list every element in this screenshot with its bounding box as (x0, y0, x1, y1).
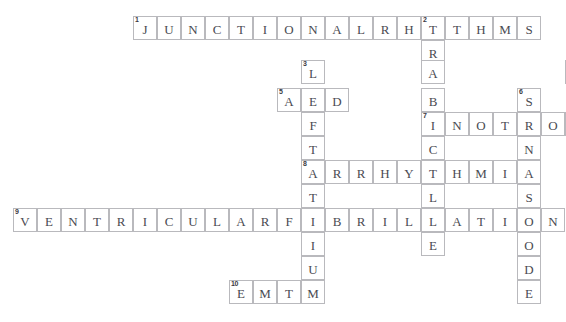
clue-number: 2 (423, 16, 427, 23)
crossword-cell[interactable]: 2T (421, 16, 445, 40)
crossword-cell[interactable]: R (349, 160, 373, 184)
crossword-cell[interactable]: H (373, 160, 397, 184)
crossword-cell[interactable]: A (421, 60, 445, 84)
cell-letter: H (374, 161, 396, 185)
crossword-cell[interactable]: I (301, 232, 325, 256)
crossword-cell[interactable]: B (421, 88, 445, 112)
crossword-cell[interactable]: S (517, 16, 541, 40)
crossword-cell[interactable]: F (301, 112, 325, 136)
crossword-cell[interactable]: T (493, 112, 517, 136)
cell-letter: I (302, 233, 324, 257)
crossword-cell[interactable]: A (517, 160, 541, 184)
crossword-cell[interactable]: Y (397, 160, 421, 184)
crossword-grid[interactable]: 1JUNCTIONALRH2TTHMSR3LA4ENLARGEDHEART5AE… (0, 0, 566, 322)
clue-number: 6 (519, 88, 523, 95)
cell-letter: N (182, 17, 204, 41)
crossword-cell[interactable]: C (421, 136, 445, 160)
crossword-cell[interactable]: E (301, 88, 325, 112)
crossword-cell[interactable]: R (253, 208, 277, 232)
crossword-cell[interactable]: U (157, 16, 181, 40)
crossword-cell[interactable]: I (133, 208, 157, 232)
crossword-cell[interactable]: L (349, 16, 373, 40)
cell-letter: L (398, 209, 420, 233)
crossword-cell[interactable]: M (469, 160, 493, 184)
crossword-cell[interactable]: I (301, 208, 325, 232)
crossword-cell[interactable]: E (421, 232, 445, 256)
crossword-cell[interactable]: N (61, 208, 85, 232)
crossword-cell[interactable]: 10E (229, 280, 253, 304)
crossword-cell[interactable]: D (517, 256, 541, 280)
crossword-cell[interactable]: 5A (277, 88, 301, 112)
crossword-cell[interactable]: R (325, 160, 349, 184)
cell-letter: O (470, 113, 492, 137)
crossword-cell[interactable]: H (469, 16, 493, 40)
crossword-cell[interactable]: U (181, 208, 205, 232)
crossword-cell[interactable]: N (517, 136, 541, 160)
crossword-cell[interactable]: L (205, 208, 229, 232)
crossword-cell[interactable]: T (301, 184, 325, 208)
crossword-cell[interactable]: T (301, 136, 325, 160)
crossword-cell[interactable]: E (517, 280, 541, 304)
crossword-cell[interactable]: N (445, 112, 469, 136)
crossword-cell[interactable]: C (205, 16, 229, 40)
crossword-cell[interactable]: I (253, 16, 277, 40)
cell-letter: R (374, 17, 396, 41)
crossword-cell[interactable]: O (517, 208, 541, 232)
crossword-cell[interactable]: M (493, 16, 517, 40)
crossword-cell[interactable]: D (325, 88, 349, 112)
crossword-cell[interactable]: T (85, 208, 109, 232)
crossword-cell[interactable]: A (229, 208, 253, 232)
cell-letter: F (278, 209, 300, 233)
crossword-cell[interactable]: T (229, 16, 253, 40)
crossword-cell[interactable]: 9V (13, 208, 37, 232)
crossword-cell[interactable]: T (469, 208, 493, 232)
cell-letter: I (374, 209, 396, 233)
crossword-cell[interactable]: R (373, 16, 397, 40)
crossword-cell[interactable]: I (373, 208, 397, 232)
cell-letter: N (542, 209, 564, 233)
crossword-cell[interactable]: S (517, 184, 541, 208)
crossword-cell[interactable]: T (421, 160, 445, 184)
crossword-cell[interactable]: 6S (517, 88, 541, 112)
crossword-cell[interactable]: M (301, 280, 325, 304)
cell-letter: T (278, 281, 300, 305)
crossword-cell[interactable]: B (325, 208, 349, 232)
cell-letter: A (326, 17, 348, 41)
crossword-cell[interactable]: R (349, 208, 373, 232)
crossword-cell[interactable]: L (397, 208, 421, 232)
crossword-cell[interactable]: O (277, 16, 301, 40)
crossword-cell[interactable]: A (445, 208, 469, 232)
cell-letter: E (38, 209, 60, 233)
crossword-cell[interactable]: E (37, 208, 61, 232)
crossword-cell[interactable]: I (493, 208, 517, 232)
crossword-cell[interactable]: 1J (133, 16, 157, 40)
clue-number: 3 (303, 60, 307, 67)
crossword-cell[interactable]: O (517, 232, 541, 256)
cell-letter: M (470, 161, 492, 185)
crossword-cell[interactable]: 8A (301, 160, 325, 184)
crossword-cell[interactable]: F (277, 208, 301, 232)
crossword-cell[interactable]: R (517, 112, 541, 136)
crossword-cell[interactable]: M (253, 280, 277, 304)
crossword-cell[interactable]: H (445, 160, 469, 184)
crossword-cell[interactable]: T (277, 280, 301, 304)
crossword-cell[interactable]: O (469, 112, 493, 136)
crossword-cell[interactable]: H (397, 16, 421, 40)
cell-letter: D (326, 89, 348, 113)
crossword-cell[interactable]: N (541, 208, 565, 232)
crossword-cell[interactable]: U (301, 256, 325, 280)
crossword-cell[interactable]: N (181, 16, 205, 40)
crossword-cell[interactable]: 3L (301, 60, 325, 84)
crossword-cell[interactable]: O (541, 112, 565, 136)
cell-letter: N (302, 17, 324, 41)
crossword-cell[interactable]: L (421, 184, 445, 208)
crossword-cell[interactable]: I (493, 160, 517, 184)
crossword-cell[interactable]: T (445, 16, 469, 40)
crossword-cell[interactable]: A (325, 16, 349, 40)
crossword-cell[interactable]: 7I (421, 112, 445, 136)
crossword-cell[interactable]: L (421, 208, 445, 232)
crossword-cell[interactable]: C (157, 208, 181, 232)
cell-letter: R (350, 161, 372, 185)
crossword-cell[interactable]: R (109, 208, 133, 232)
crossword-cell[interactable]: N (301, 16, 325, 40)
